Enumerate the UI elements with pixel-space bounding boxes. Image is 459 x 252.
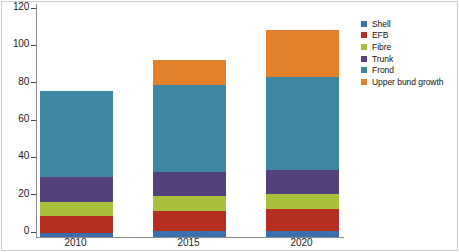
legend-swatch-efb (361, 32, 367, 38)
bar-segment-fibre[interactable] (40, 202, 113, 217)
x-tick-label-2010: 2010 (39, 237, 112, 248)
legend: Shell EFB Fibre Trunk Frond Upper bund g… (361, 18, 457, 88)
legend-label-upper-bund-growth: Upper bund growth (372, 77, 443, 87)
bar-segment-trunk[interactable] (153, 172, 226, 196)
legend-swatch-fibre (361, 44, 367, 50)
stacked-bar-chart: 120 100 80 60 40 20 0 (0, 0, 459, 252)
y-tick-label-100: 100 (13, 38, 29, 49)
plot-area (36, 4, 344, 238)
bar-segment-efb[interactable] (153, 211, 226, 232)
bar-segment-frond[interactable] (40, 91, 113, 178)
bar-2010[interactable] (40, 91, 113, 238)
x-tick-label-2015: 2015 (152, 237, 225, 248)
legend-item-efb[interactable]: EFB (361, 30, 457, 42)
legend-item-fibre[interactable]: Fibre (361, 41, 457, 53)
bar-2015[interactable] (153, 60, 226, 237)
bar-2020[interactable] (266, 30, 339, 237)
bar-segment-upper-bund-growth[interactable] (153, 60, 226, 85)
bar-segment-trunk[interactable] (266, 170, 339, 194)
y-tick-label-40: 40 (18, 150, 29, 161)
x-tick-label-2020: 2020 (265, 237, 338, 248)
legend-item-trunk[interactable]: Trunk (361, 53, 457, 65)
bar-segment-frond[interactable] (266, 77, 339, 170)
bar-segment-efb[interactable] (266, 209, 339, 231)
y-tick-label-20: 20 (18, 188, 29, 199)
bar-segment-upper-bund-growth[interactable] (266, 30, 339, 77)
legend-item-frond[interactable]: Frond (361, 64, 457, 76)
y-tick-label-0: 0 (24, 225, 29, 236)
legend-label-fibre: Fibre (372, 42, 391, 52)
legend-label-frond: Frond (372, 65, 394, 75)
y-tick-label-60: 60 (18, 113, 29, 124)
legend-label-trunk: Trunk (372, 54, 393, 64)
legend-swatch-frond (361, 67, 367, 73)
bar-segment-trunk[interactable] (40, 177, 113, 201)
legend-item-upper-bund-growth[interactable]: Upper bund growth (361, 76, 457, 88)
legend-item-shell[interactable]: Shell (361, 18, 457, 30)
bar-segment-fibre[interactable] (266, 194, 339, 209)
legend-swatch-upper-bund-growth (361, 79, 367, 85)
legend-label-shell: Shell (372, 19, 391, 29)
bar-segment-efb[interactable] (40, 216, 113, 233)
y-tick-label-120: 120 (13, 1, 29, 12)
legend-swatch-trunk (361, 56, 367, 62)
y-tick-label-80: 80 (18, 76, 29, 87)
bar-segment-fibre[interactable] (153, 196, 226, 211)
bar-segment-frond[interactable] (153, 85, 226, 172)
legend-label-efb: EFB (372, 30, 388, 40)
legend-swatch-shell (361, 21, 367, 27)
